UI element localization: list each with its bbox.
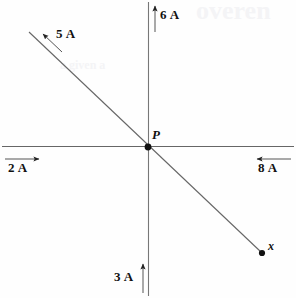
endpoint-label: x (268, 240, 274, 252)
current-label-6a: 6 A (160, 8, 179, 21)
current-label-8a: 8 A (258, 161, 277, 174)
current-label-3a: 3 A (114, 270, 133, 283)
current-label-2a: 2 A (8, 161, 27, 174)
diagonal-conductor (29, 32, 261, 252)
junction-point-dot (145, 144, 152, 151)
endpoint-dot (259, 250, 265, 256)
junction-point-label: P (152, 128, 160, 141)
current-junction-diagram: overen a given a 6 A 5 A 2 A 8 (0, 0, 296, 298)
diagram-canvas (0, 0, 296, 298)
current-label-5a: 5 A (56, 27, 75, 40)
